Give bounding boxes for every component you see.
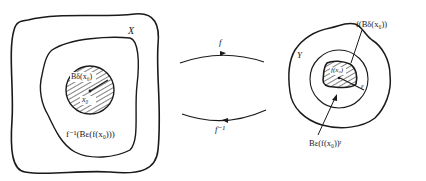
- epsilon-ball-label: Bε(f(x₀))ʳ: [309, 139, 341, 148]
- inverse-map-arrow: [182, 110, 266, 121]
- fx0-label: f(x₀): [331, 67, 343, 74]
- center-point-x0: [89, 90, 92, 93]
- ball-pointer-line: [318, 98, 335, 135]
- delta-ball-label: Bδ(x₀): [71, 73, 92, 81]
- preimage-label: f⁻¹(Bε(f(x₀))): [66, 130, 115, 139]
- space-y-label: Y: [297, 51, 302, 60]
- image-label: f(Bδ(x₀)): [356, 20, 387, 29]
- x0-label: x₀: [82, 96, 88, 104]
- ball-pointer-arrowhead: [332, 94, 337, 101]
- center-point-fx0: [338, 77, 341, 80]
- space-x-label: X: [128, 26, 134, 36]
- epsilon-label: ε: [361, 83, 364, 90]
- forward-map-label: f: [219, 38, 222, 47]
- image-pointer-line: [351, 30, 362, 63]
- forward-map-arrow: [180, 55, 264, 63]
- inverse-map-label: f⁻¹: [215, 125, 225, 134]
